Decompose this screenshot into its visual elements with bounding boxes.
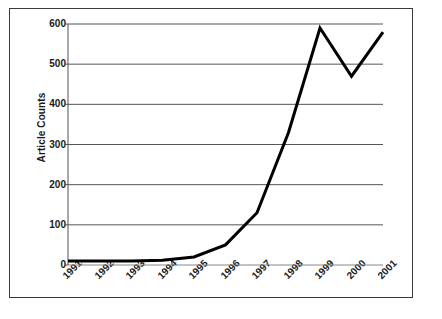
gridlines (68, 24, 383, 265)
line-chart-plot (0, 0, 442, 319)
axis-ticks (64, 24, 68, 265)
